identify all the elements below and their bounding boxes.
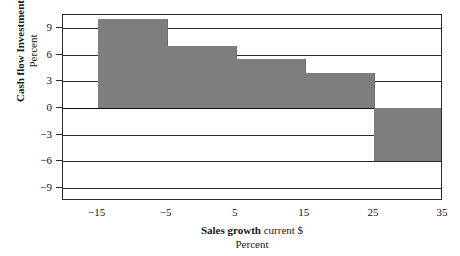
x-axis-title-tail: current $ (264, 224, 303, 236)
y-tick-label: −9 (4, 181, 52, 193)
bar (98, 19, 168, 108)
bar (305, 73, 375, 108)
y-tick-label: −6 (4, 154, 52, 166)
x-tick-label: 35 (437, 206, 448, 218)
y-tick-label: 6 (4, 48, 52, 60)
bar (167, 46, 237, 108)
x-tick-label: −15 (88, 206, 105, 218)
y-tick-label: −3 (4, 128, 52, 140)
bar (374, 108, 442, 161)
x-tick-label: 15 (298, 206, 309, 218)
y-tick-label: 0 (4, 101, 52, 113)
bar (236, 59, 306, 108)
x-tick-label: −5 (160, 206, 172, 218)
x-tick-label: 5 (232, 206, 238, 218)
y-tick-label: 3 (4, 74, 52, 86)
chart-figure: Cash flow Investment Percent 9630−3−6−9 … (0, 0, 460, 256)
gridline (63, 161, 441, 162)
x-tick-label: 25 (367, 206, 378, 218)
y-tick-label: 9 (4, 21, 52, 33)
x-axis-title-main: Sales growth (201, 224, 261, 236)
plot-area (62, 14, 442, 200)
x-axis-title-sub: Percent (62, 238, 442, 250)
x-axis-title: Sales growth current $ (62, 224, 442, 236)
gridline (63, 188, 441, 189)
